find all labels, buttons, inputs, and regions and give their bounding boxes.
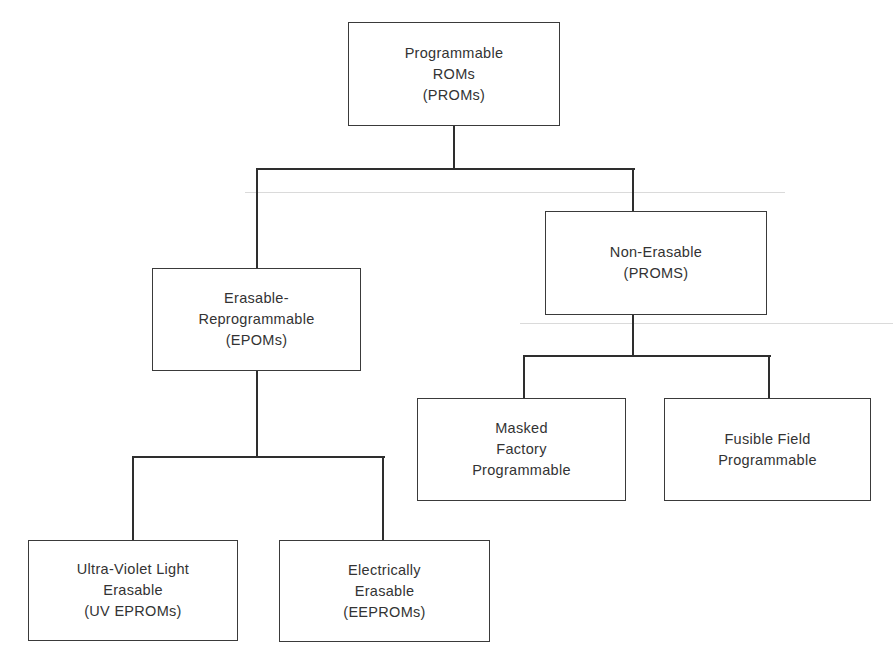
node-label-line: (EEPROMs) [343, 602, 425, 623]
node-label-line: (EPOMs) [226, 330, 288, 351]
connector-non-erasable-bus [523, 355, 771, 357]
connector-erasable-stem [256, 370, 258, 458]
connector-to-ee [382, 456, 384, 541]
node-label-line: ROMs [433, 64, 475, 85]
node-label-line: Electrically [348, 560, 421, 581]
connector-to-fusible [768, 355, 770, 399]
node-label-line: Masked [495, 418, 548, 439]
node-erasable-reprogrammable: Erasable- Reprogrammable (EPOMs) [152, 268, 361, 371]
node-label-line: (UV EPROMs) [84, 601, 182, 622]
connector-to-uv [132, 456, 134, 541]
node-fusible-field-programmable: Fusible Field Programmable [664, 398, 871, 501]
connector-root-stem [453, 125, 455, 170]
node-eeproms: Electrically Erasable (EEPROMs) [279, 540, 490, 642]
connector-non-erasable-stem [632, 314, 634, 357]
node-label-line: (PROMS) [624, 263, 689, 284]
node-label-line: Erasable [355, 581, 415, 602]
node-label-line: Programmable [405, 43, 504, 64]
node-uv-eproms: Ultra-Violet Light Erasable (UV EPROMs) [28, 540, 238, 641]
node-label-line: Programmable [718, 450, 817, 471]
node-programmable-roms: Programmable ROMs (PROMs) [348, 22, 560, 126]
node-label-line: Factory [496, 439, 546, 460]
node-non-erasable: Non-Erasable (PROMS) [545, 211, 767, 315]
connector-to-masked [523, 355, 525, 399]
connector-to-non-erasable [632, 168, 634, 212]
node-label-line: Programmable [472, 460, 571, 481]
node-label-line: Non-Erasable [610, 242, 702, 263]
node-label-line: Reprogrammable [198, 309, 314, 330]
node-label-line: Fusible Field [724, 429, 810, 450]
connector-to-erasable [256, 168, 258, 269]
scan-artifact [520, 323, 893, 324]
node-label-line: Ultra-Violet Light [77, 559, 189, 580]
connector-erasable-bus [132, 456, 385, 458]
node-label-line: (PROMs) [423, 85, 486, 106]
node-masked-factory-programmable: Masked Factory Programmable [417, 398, 626, 501]
connector-level1-bus [256, 168, 635, 170]
node-label-line: Erasable- [224, 288, 289, 309]
prom-classification-diagram: Programmable ROMs (PROMs) Erasable- Repr… [0, 0, 893, 670]
scan-artifact [245, 192, 785, 193]
node-label-line: Erasable [103, 580, 163, 601]
